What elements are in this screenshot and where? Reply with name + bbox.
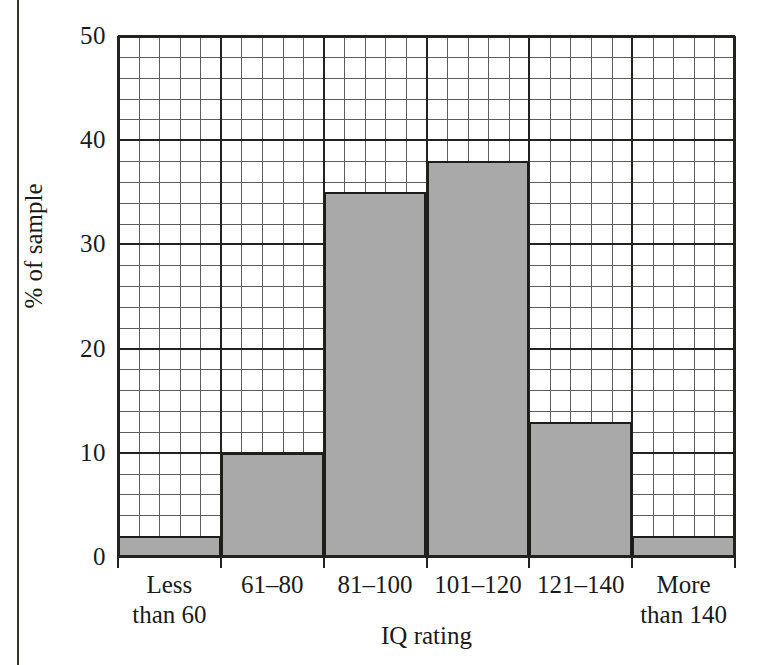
y-tick-label: 30 xyxy=(46,231,106,256)
bar xyxy=(118,536,221,557)
x-axis-title: IQ rating xyxy=(118,622,735,650)
y-tick-label: 10 xyxy=(46,440,106,465)
x-tick-mark xyxy=(323,557,325,568)
y-axis-tick-labels: 01020304050 xyxy=(38,0,106,665)
bar-series xyxy=(118,36,735,557)
bar xyxy=(324,192,427,557)
y-tick-label: 0 xyxy=(46,544,106,569)
x-tick-label-line: More xyxy=(614,570,754,600)
x-tick-mark xyxy=(220,557,222,568)
x-tick-label: Morethan 140 xyxy=(614,570,754,630)
chart-figure: 01020304050 % of sample Lessthan 6061–80… xyxy=(0,0,773,665)
page-border-rule xyxy=(17,0,19,665)
bar xyxy=(632,536,735,557)
x-tick-mark xyxy=(734,557,736,568)
bar xyxy=(529,422,632,557)
x-tick-mark xyxy=(631,557,633,568)
bar xyxy=(221,453,324,557)
x-tick-mark xyxy=(528,557,530,568)
y-tick-label: 40 xyxy=(46,127,106,152)
x-tick-mark xyxy=(117,557,119,568)
y-axis-title: % of sample xyxy=(20,146,48,346)
y-tick-label: 50 xyxy=(46,23,106,48)
bar xyxy=(427,161,530,557)
plot-area xyxy=(118,36,735,557)
y-tick-label: 20 xyxy=(46,336,106,361)
x-tick-mark xyxy=(426,557,428,568)
